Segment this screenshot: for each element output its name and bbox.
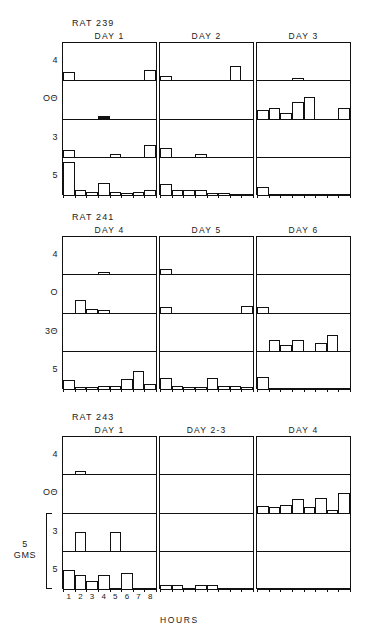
bar-series — [63, 314, 156, 351]
histogram-bar — [110, 154, 122, 156]
x-axis-tick — [75, 194, 76, 198]
panel-subrow — [257, 81, 350, 119]
histogram-bar — [195, 154, 207, 157]
x-axis-tick — [253, 388, 254, 392]
y-axis-row-label: 5 — [34, 170, 58, 180]
histogram-bar — [98, 116, 110, 118]
x-axis-tick — [241, 588, 242, 592]
bar-series — [160, 275, 253, 312]
bar-series — [257, 237, 350, 274]
panel-subrow — [257, 437, 350, 475]
chart-panel — [256, 436, 351, 589]
bar-series — [257, 81, 350, 118]
x-axis-tick — [269, 388, 270, 392]
x-axis-tick — [315, 194, 316, 198]
x-axis-ticks — [63, 194, 156, 199]
bar-series — [160, 475, 253, 512]
histogram-bar — [338, 108, 350, 118]
bar-series — [257, 514, 350, 551]
x-axis-tick — [160, 388, 161, 392]
y-axis-row-label: 3Θ — [34, 326, 58, 336]
panel-subrow — [160, 514, 253, 552]
histogram-bar — [280, 113, 292, 118]
histogram-bar — [86, 309, 98, 312]
scale-unit: GMS — [8, 550, 42, 561]
x-axis-tick — [241, 194, 242, 198]
x-axis-title: HOURS — [160, 615, 199, 625]
bar-series — [160, 120, 253, 157]
x-axis-tick — [304, 388, 305, 392]
x-axis-tick — [172, 588, 173, 592]
x-axis-tick — [160, 194, 161, 198]
panel-subrow — [160, 43, 253, 81]
panel-day-title: DAY 3 — [256, 31, 351, 41]
bar-series — [63, 514, 156, 551]
bar-series — [160, 552, 253, 589]
chart-panel: 12345678 — [62, 436, 157, 589]
chart-panel — [62, 236, 157, 389]
bar-series — [63, 352, 156, 389]
histogram-bar — [75, 300, 87, 312]
histogram-bar — [98, 272, 110, 275]
histogram-bar — [160, 269, 172, 274]
panel-subrow — [257, 352, 350, 390]
panel-subrow — [160, 552, 253, 590]
bar-series — [63, 552, 156, 589]
x-axis-tick — [86, 194, 87, 198]
histogram-bar — [75, 471, 87, 474]
histogram-bar — [63, 162, 75, 195]
panel-subrow — [160, 314, 253, 352]
x-axis-tick — [121, 194, 122, 198]
panel-subrow — [160, 158, 253, 196]
x-axis-tick — [280, 588, 281, 592]
x-axis-tick — [327, 588, 328, 592]
panel-subrow — [160, 475, 253, 513]
histogram-bar — [98, 575, 110, 589]
x-axis-ticks — [160, 588, 253, 593]
bar-series — [63, 275, 156, 312]
x-axis-ticks — [160, 388, 253, 393]
x-axis-tick — [160, 588, 161, 592]
x-axis-tick — [195, 588, 196, 592]
x-axis-tick-label: 5 — [110, 592, 120, 601]
panel-day-title: DAY 1 — [62, 31, 157, 41]
x-axis-tick-label: 3 — [87, 592, 97, 601]
panel-subrow — [257, 275, 350, 313]
histogram-bar — [63, 150, 75, 156]
x-axis-tick — [304, 194, 305, 198]
bar-series — [160, 314, 253, 351]
panel-subrow — [160, 81, 253, 119]
panel-day-title: DAY 1 — [62, 425, 157, 435]
bar-series — [257, 275, 350, 312]
x-axis-tick — [327, 194, 328, 198]
bar-series — [160, 81, 253, 118]
x-axis-tick — [218, 588, 219, 592]
bar-series — [160, 437, 253, 474]
panel-day-title: DAY 4 — [62, 225, 157, 235]
histogram-bar — [304, 507, 316, 513]
histogram-bar — [75, 532, 87, 550]
panel-subrow — [257, 237, 350, 275]
x-axis-tick — [207, 194, 208, 198]
x-axis-tick — [327, 388, 328, 392]
x-axis-tick-label: 6 — [122, 592, 132, 601]
x-axis-ticks — [257, 388, 350, 393]
x-axis-tick — [172, 194, 173, 198]
panel-subrow — [257, 314, 350, 352]
histogram-bar — [292, 78, 304, 81]
histogram-bar — [292, 102, 304, 118]
x-axis-tick — [183, 388, 184, 392]
x-axis-tick — [133, 194, 134, 198]
x-axis-tick — [195, 194, 196, 198]
x-axis-tick — [110, 194, 111, 198]
x-axis-ticks — [160, 194, 253, 199]
histogram-bar — [230, 66, 242, 80]
x-axis-tick — [304, 588, 305, 592]
bar-series — [63, 158, 156, 195]
y-axis-row-label: 4 — [34, 249, 58, 259]
x-axis-tick — [218, 388, 219, 392]
x-axis-tick — [183, 194, 184, 198]
panel-subrow — [63, 158, 156, 196]
x-axis-tick — [241, 388, 242, 392]
bar-series — [63, 437, 156, 474]
